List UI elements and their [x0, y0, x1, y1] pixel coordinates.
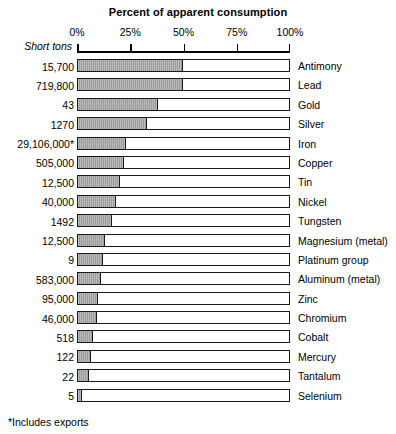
bar-row: 719,800Lead [0, 77, 396, 96]
row-commodity-label: Zinc [298, 293, 318, 305]
bar-track [77, 272, 290, 285]
bar-row: 518Cobalt [0, 329, 396, 348]
row-short-tons-value: 1270 [51, 119, 74, 131]
row-commodity-label: Selenium [298, 390, 342, 402]
row-commodity-label: Tantalum [298, 370, 341, 382]
row-commodity-label: Aluminum (metal) [298, 273, 380, 285]
x-axis-tick-label: 75% [217, 26, 257, 38]
bar-row: 46,000Chromium [0, 310, 396, 329]
bar-track [77, 78, 290, 91]
bar-fill [78, 215, 112, 226]
bar-track [77, 389, 290, 402]
bar-track [77, 234, 290, 247]
bar-row: 29,106,000*Iron [0, 136, 396, 155]
bar-fill [78, 351, 91, 362]
bar-track [77, 156, 290, 169]
bar-row: 22Tantalum [0, 368, 396, 387]
bar-fill [78, 254, 103, 265]
row-short-tons-value: 5 [68, 390, 74, 402]
x-axis-tick-label: 25% [110, 26, 150, 38]
x-axis-tick [130, 44, 132, 52]
bar-fill [78, 196, 116, 207]
row-commodity-label: Copper [298, 157, 332, 169]
bar-track [77, 214, 290, 227]
bar-row: 12,500Tin [0, 174, 396, 193]
bar-track [77, 330, 290, 343]
row-short-tons-value: 9 [68, 254, 74, 266]
row-commodity-label: Magnesium (metal) [298, 235, 388, 247]
bar-track [77, 59, 290, 72]
row-short-tons-value: 583,000 [36, 274, 74, 286]
row-short-tons-value: 40,000 [42, 196, 74, 208]
x-axis-tick [289, 44, 291, 52]
bar-track [77, 175, 290, 188]
bar-row: 122Mercury [0, 349, 396, 368]
row-short-tons-value: 22 [62, 371, 74, 383]
bar-fill [78, 273, 101, 284]
bar-fill [78, 331, 93, 342]
row-commodity-label: Cobalt [298, 331, 328, 343]
bar-fill [78, 79, 183, 90]
x-axis-tick-label: 50% [164, 26, 204, 38]
row-commodity-label: Antimony [298, 60, 342, 72]
bar-fill [78, 293, 98, 304]
bar-track [77, 117, 290, 130]
bar-fill [78, 235, 105, 246]
bar-fill [78, 118, 147, 129]
bar-row: 40,000Nickel [0, 194, 396, 213]
value-column-header: Short tons [24, 40, 72, 52]
x-axis-tick [237, 44, 239, 52]
bar-fill [78, 312, 97, 323]
bar-row: 9Platinum group [0, 252, 396, 271]
row-commodity-label: Mercury [298, 351, 336, 363]
row-commodity-label: Lead [298, 79, 321, 91]
x-axis-tick-labels: 0%25%50%75%100% [0, 26, 396, 39]
row-commodity-label: Iron [298, 138, 316, 150]
x-axis-tick-label: 0% [57, 26, 97, 38]
bar-fill [78, 99, 158, 110]
bar-fill [78, 60, 183, 71]
bar-rows: 15,700Antimony719,800Lead43Gold1270Silve… [0, 58, 396, 407]
x-axis-tick-label: 100% [270, 26, 310, 38]
row-short-tons-value: 95,000 [42, 293, 74, 305]
bar-row: 43Gold [0, 97, 396, 116]
bar-row: 583,000Aluminum (metal) [0, 271, 396, 290]
row-commodity-label: Tungsten [298, 215, 341, 227]
bar-fill [78, 390, 82, 401]
bar-track [77, 311, 290, 324]
x-axis-tick [184, 44, 186, 52]
x-axis-tick [77, 44, 79, 52]
row-short-tons-value: 719,800 [36, 80, 74, 92]
bar-row: 505,000Copper [0, 155, 396, 174]
chart-footnote: *Includes exports [8, 416, 89, 428]
bar-row: 1492Tungsten [0, 213, 396, 232]
bar-row: 15,700Antimony [0, 58, 396, 77]
bar-fill [78, 370, 89, 381]
row-commodity-label: Tin [298, 176, 312, 188]
bar-track [77, 350, 290, 363]
row-short-tons-value: 518 [56, 332, 74, 344]
row-short-tons-value: 43 [62, 99, 74, 111]
row-short-tons-value: 12,500 [42, 235, 74, 247]
row-commodity-label: Platinum group [298, 254, 369, 266]
row-commodity-label: Gold [298, 99, 320, 111]
row-short-tons-value: 12,500 [42, 177, 74, 189]
row-commodity-label: Chromium [298, 312, 346, 324]
row-short-tons-value: 15,700 [42, 61, 74, 73]
bar-row: 1270Silver [0, 116, 396, 135]
bar-fill [78, 138, 126, 149]
bar-track [77, 253, 290, 266]
row-short-tons-value: 122 [56, 351, 74, 363]
bar-track [77, 98, 290, 111]
bar-row: 12,500Magnesium (metal) [0, 233, 396, 252]
bar-row: 5Selenium [0, 388, 396, 407]
bar-fill [78, 176, 120, 187]
bar-fill [78, 157, 124, 168]
bar-track [77, 195, 290, 208]
row-short-tons-value: 46,000 [42, 313, 74, 325]
bar-track [77, 369, 290, 382]
bar-track [77, 292, 290, 305]
row-commodity-label: Silver [298, 118, 324, 130]
row-short-tons-value: 29,106,000* [17, 138, 74, 150]
chart-title: Percent of apparent consumption [0, 6, 396, 18]
